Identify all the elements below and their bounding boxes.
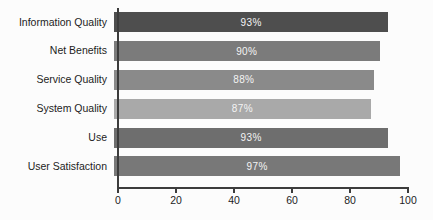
bar-row: Information Quality93% (0, 8, 409, 37)
bar-track: 93% (114, 128, 409, 148)
x-axis-tick-mark (233, 189, 235, 193)
bar: 97% (114, 156, 400, 176)
bar-chart: Information Quality93%Net Benefits90%Ser… (0, 0, 433, 220)
bar-value-label: 87% (232, 103, 253, 114)
x-axis-tick-label: 80 (344, 194, 356, 206)
bar-value-label: 97% (246, 161, 267, 172)
bar-row: Use93% (0, 123, 409, 152)
bar-track: 88% (114, 70, 409, 90)
bar-value-label: 88% (233, 74, 254, 85)
bar-track: 97% (114, 156, 409, 176)
bar-value-label: 93% (241, 132, 262, 143)
category-label: Net Benefits (0, 45, 114, 57)
x-axis-line (117, 187, 409, 189)
bar: 90% (114, 41, 380, 61)
x-axis-tick-label: 20 (170, 194, 182, 206)
bar-value-label: 90% (236, 46, 257, 57)
x-axis-tick-label: 40 (228, 194, 240, 206)
bar: 88% (114, 70, 374, 90)
category-label: Use (0, 132, 114, 144)
bar: 93% (114, 12, 388, 32)
bar-track: 90% (114, 41, 409, 61)
bar-rows: Information Quality93%Net Benefits90%Ser… (0, 8, 409, 181)
x-axis-tick-mark (291, 189, 293, 193)
x-axis-tick-mark (349, 189, 351, 193)
x-axis-tick-mark (175, 189, 177, 193)
category-label: User Satisfaction (0, 161, 114, 173)
bar-row: Net Benefits90% (0, 37, 409, 66)
bar-row: System Quality87% (0, 94, 409, 123)
bar: 93% (114, 128, 388, 148)
x-axis-tick-mark (407, 189, 409, 193)
x-axis-tick-label: 100 (399, 194, 417, 206)
category-label: Service Quality (0, 74, 114, 86)
x-axis-tick-label: 0 (115, 194, 121, 206)
bar-value-label: 93% (241, 17, 262, 28)
bar: 87% (114, 99, 371, 119)
category-label: System Quality (0, 103, 114, 115)
x-axis-tick-label: 60 (286, 194, 298, 206)
bar-track: 93% (114, 12, 409, 32)
x-axis-tick-mark (117, 189, 119, 193)
bar-track: 87% (114, 99, 409, 119)
category-label: Information Quality (0, 17, 114, 29)
bar-row: User Satisfaction97% (0, 152, 409, 181)
bar-row: Service Quality88% (0, 66, 409, 95)
y-axis-line (117, 8, 119, 189)
